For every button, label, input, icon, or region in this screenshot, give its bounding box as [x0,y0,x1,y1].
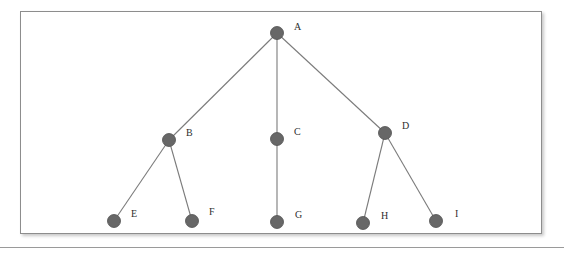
node-i[interactable] [430,215,443,228]
node-label-i: I [455,208,458,219]
node-layer [108,27,443,230]
node-h[interactable] [357,217,370,230]
node-label-c: C [294,126,301,137]
node-c[interactable] [271,133,284,146]
node-b[interactable] [163,134,176,147]
node-d[interactable] [379,127,392,140]
edge-a-b [169,33,277,140]
node-label-e: E [131,208,137,219]
edge-a-d [277,33,385,133]
node-f[interactable] [186,215,199,228]
node-label-g: G [295,209,302,220]
node-e[interactable] [108,215,121,228]
node-label-b: B [186,127,193,138]
node-label-a: A [294,21,302,32]
edge-d-i [385,133,436,221]
node-g[interactable] [271,216,284,229]
edge-b-f [169,140,192,221]
figure-root: ABCDEFGHI [0,0,564,254]
node-label-h: H [381,210,388,221]
node-label-f: F [209,206,215,217]
node-a[interactable] [271,27,284,40]
label-layer: ABCDEFGHI [131,21,458,221]
tree-graph: ABCDEFGHI [0,0,564,254]
footer-rule [0,247,564,248]
edge-b-e [114,140,169,221]
node-label-d: D [402,120,409,131]
